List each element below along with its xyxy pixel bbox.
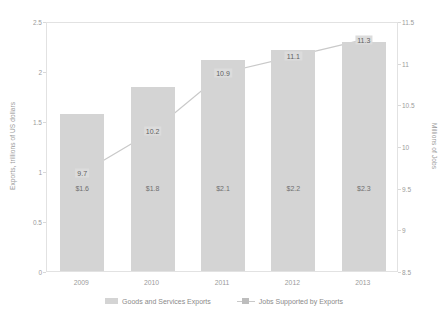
x-axis-category-label: 2011 xyxy=(215,279,230,286)
bar[interactable] xyxy=(201,60,245,271)
legend-label-jobs: Jobs Supported by Exports xyxy=(259,298,343,305)
bar-value-label: $2.3 xyxy=(357,185,371,192)
x-axis: 20092010201120122013 xyxy=(46,272,398,292)
y-axis-right-tick: 8.5 xyxy=(402,269,411,276)
bar-swatch-icon xyxy=(105,298,118,304)
y-axis-left-tick: 1 xyxy=(38,169,42,176)
y-axis-right-tick: 10.5 xyxy=(402,102,415,109)
bar[interactable] xyxy=(60,114,104,271)
y-axis-left-tick: 2 xyxy=(38,69,42,76)
y-axis-right-tick: 9.5 xyxy=(402,185,411,192)
line-marker-swatch-icon xyxy=(237,298,255,305)
y-axis-right-title: Millions of Jobs xyxy=(431,123,438,169)
bar[interactable] xyxy=(271,50,315,271)
bar[interactable] xyxy=(131,87,175,271)
y-axis-right-tick: 11 xyxy=(402,60,409,67)
bar-value-label: $1.8 xyxy=(146,185,160,192)
legend-item-jobs[interactable]: Jobs Supported by Exports xyxy=(237,298,343,305)
legend-item-exports[interactable]: Goods and Services Exports xyxy=(105,298,211,305)
line-value-label: 9.7 xyxy=(75,169,89,178)
bar-value-label: $1.6 xyxy=(75,185,89,192)
line-value-label: 11.3 xyxy=(355,35,372,44)
bar[interactable] xyxy=(342,42,386,271)
x-axis-category-label: 2009 xyxy=(74,279,89,286)
x-axis-category-label: 2010 xyxy=(144,279,159,286)
x-axis-category-label: 2013 xyxy=(355,279,370,286)
y-axis-left-title: Exports, trillions of US dollars xyxy=(9,102,16,190)
legend-label-exports: Goods and Services Exports xyxy=(122,298,211,305)
y-axis-right-tick: 9 xyxy=(402,227,406,234)
line-value-label: 11.1 xyxy=(285,52,302,61)
y-axis-left-tick: 1.5 xyxy=(33,119,42,126)
chart-legend: Goods and Services Exports Jobs Supporte… xyxy=(0,294,448,308)
bar-value-label: $2.1 xyxy=(216,185,230,192)
line-value-label: 10.9 xyxy=(214,69,232,78)
y-axis-right-tick: 11.5 xyxy=(402,19,414,26)
chart-container: Exports, trillions of US dollars Million… xyxy=(0,0,448,319)
plot-area: $1.6$1.8$2.1$2.2$2.39.710.210.911.111.3 xyxy=(46,22,398,272)
bar-value-label: $2.2 xyxy=(287,185,301,192)
x-axis-category-label: 2012 xyxy=(285,279,300,286)
line-value-label: 10.2 xyxy=(144,127,162,136)
y-axis-left-tick: 0 xyxy=(38,269,42,276)
y-axis-left-tick: 2.5 xyxy=(33,19,42,26)
y-axis-right-tick: 10 xyxy=(402,144,409,151)
y-axis-left-tick: 0.5 xyxy=(33,219,42,226)
